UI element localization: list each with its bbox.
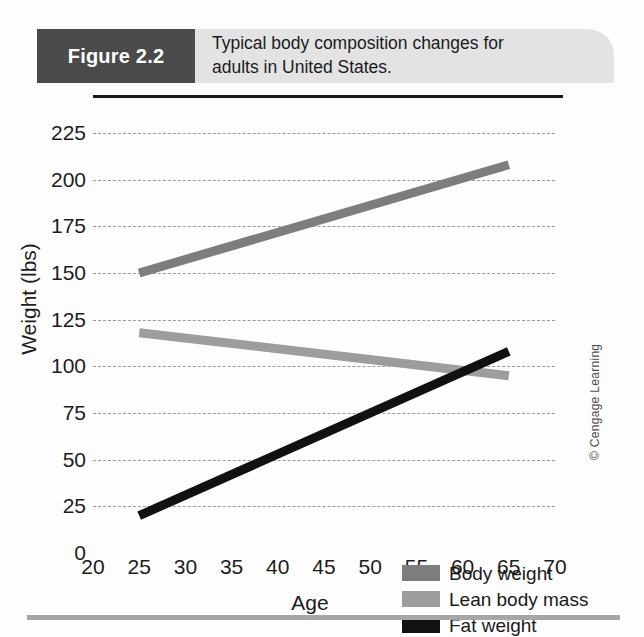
legend-swatch-icon — [402, 565, 440, 581]
y-axis-title: Weight (lbs) — [17, 204, 41, 394]
y-tick-label: 200 — [26, 168, 86, 192]
y-tick-label: 25 — [26, 494, 86, 518]
legend-label: Lean body mass — [449, 590, 588, 609]
y-tick-label: 50 — [26, 448, 86, 472]
legend-item: Lean body mass — [402, 587, 617, 611]
y-tick-label: 75 — [26, 401, 86, 425]
chart-container: 0255075100125150175200225 Weight (lbs) 2… — [0, 95, 644, 595]
legend-label: Body weight — [449, 564, 553, 583]
y-tick-label: 225 — [26, 121, 86, 145]
bottom-divider — [27, 615, 620, 620]
series-line-lean-body-mass — [139, 333, 509, 376]
copyright-credit: © Cengage Learning — [588, 290, 602, 460]
series-lines — [93, 133, 555, 553]
figure-page: Figure 2.2 Typical body composition chan… — [0, 0, 644, 637]
figure-number-tag: Figure 2.2 — [37, 29, 195, 83]
figure-banner: Figure 2.2 Typical body composition chan… — [37, 29, 614, 83]
legend-item: Body weight — [402, 561, 617, 585]
legend-swatch-icon — [402, 591, 440, 607]
figure-caption: Typical body composition changes for adu… — [195, 29, 614, 83]
x-axis-line — [93, 95, 563, 98]
figure-caption-line-2: adults in United States. — [212, 56, 604, 80]
figure-caption-line-1: Typical body composition changes for — [212, 32, 604, 56]
series-line-body-weight — [139, 165, 509, 273]
plot-area — [93, 133, 555, 553]
series-line-fat-weight — [139, 351, 509, 515]
chart-legend: Body weightLean body massFat weight — [402, 561, 617, 637]
